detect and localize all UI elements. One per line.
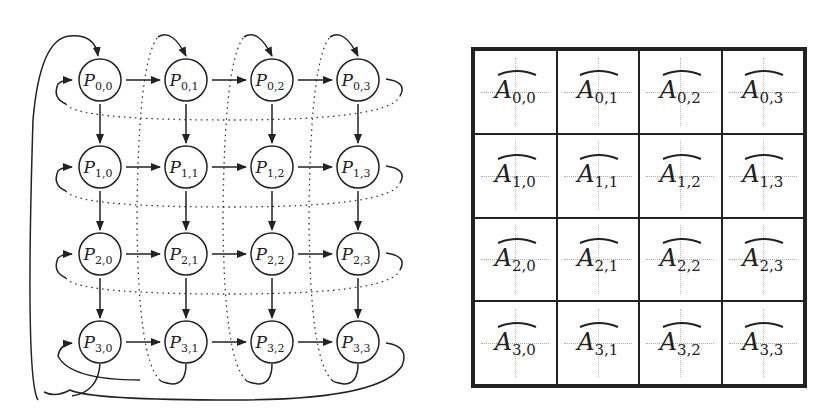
matrix-cell-0-2: A0,2	[639, 50, 722, 134]
matrix-cell-2-1: A2,1	[557, 218, 640, 302]
matrix-cell-1-3: A1,3	[722, 134, 805, 218]
matrix-cell-3-0: A3,0	[474, 301, 557, 385]
hat-accent-icon	[579, 319, 619, 329]
hat-accent-icon	[744, 235, 784, 245]
matrix-cell-3-1: A3,1	[557, 301, 640, 385]
hat-accent-icon	[662, 151, 702, 161]
hat-accent-icon	[744, 319, 784, 329]
hat-accent-icon	[497, 319, 537, 329]
hat-accent-icon	[579, 67, 619, 77]
matrix-cell-0-0: A0,0	[474, 50, 557, 134]
matrix-cell-1-0: A1,0	[474, 134, 557, 218]
matrix-cell-2-3: A2,3	[722, 218, 805, 302]
hat-accent-icon	[579, 151, 619, 161]
hat-accent-icon	[497, 235, 537, 245]
matrix-cell-2-0: A2,0	[474, 218, 557, 302]
matrix-cell-0-1: A0,1	[557, 50, 640, 134]
hat-accent-icon	[744, 151, 784, 161]
hat-accent-icon	[497, 67, 537, 77]
matrix-cell-1-2: A1,2	[639, 134, 722, 218]
matrix-cell-1-1: A1,1	[557, 134, 640, 218]
matrix-cell-0-3: A0,3	[722, 50, 805, 134]
hat-accent-icon	[662, 319, 702, 329]
hat-accent-icon	[579, 235, 619, 245]
hat-accent-icon	[497, 151, 537, 161]
hat-accent-icon	[662, 235, 702, 245]
hat-accent-icon	[662, 67, 702, 77]
matrix-cell-3-2: A3,2	[639, 301, 722, 385]
block-matrix: A0,0 A0,1 A0,2 A0,3 A1,0 A1,1 A1,2 A1,3 …	[471, 47, 807, 388]
torus-processor-diagram: P0,0 P0,1 P0,2 P0,3 P1,0 P1,1 P1,2 P1,3 …	[0, 0, 440, 409]
matrix-cell-2-2: A2,2	[639, 218, 722, 302]
matrix-cell-3-3: A3,3	[722, 301, 805, 385]
hat-accent-icon	[744, 67, 784, 77]
